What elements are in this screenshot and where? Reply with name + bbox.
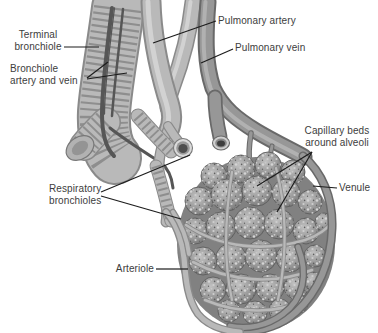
label-line: Respiratory [49, 183, 101, 195]
pulmonary-vein-vessel [204, 2, 304, 166]
figure-canvas: Terminal bronchiole Bronchiole artery an… [0, 0, 378, 333]
label-line: bronchiole [8, 41, 68, 53]
pulmonary-artery-vessel [148, 2, 193, 222]
terminal-bronchiole-label: Terminal bronchiole [8, 29, 68, 52]
label-line: bronchioles [49, 195, 101, 207]
capillary-beds-label: Capillary beds around alveoli [300, 125, 374, 148]
arteriole-label: Arteriole [110, 263, 154, 275]
venule-label: Venule [339, 182, 370, 194]
label-line: Bronchiole [10, 63, 78, 75]
label-line: Terminal [8, 29, 68, 41]
respiratory-bronchioles-label: Respiratory bronchioles [49, 183, 101, 206]
label-line: around alveoli [300, 137, 374, 149]
vein-cut-end [213, 136, 230, 150]
pulmonary-artery-label: Pulmonary artery [218, 15, 296, 27]
alveoli-cluster [177, 152, 335, 331]
pulmonary-vein-label: Pulmonary vein [235, 42, 305, 54]
label-line: artery and vein [10, 75, 78, 87]
bronchiole-artery-vein-label: Bronchiole artery and vein [10, 63, 78, 86]
label-line: Capillary beds [300, 125, 374, 137]
